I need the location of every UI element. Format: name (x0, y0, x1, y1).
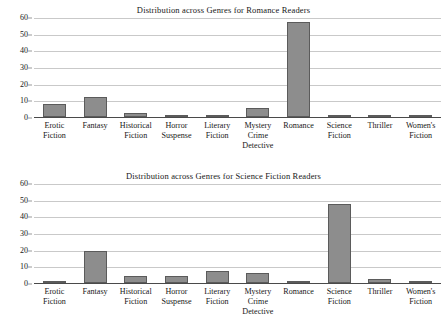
x-axis-label: Literary Fiction (197, 287, 238, 314)
bar (328, 204, 351, 283)
x-axis-line-romance (34, 117, 441, 118)
bar (165, 276, 188, 283)
bar-slot (197, 184, 238, 283)
x-axis-labels-scifi: Erotic FictionFantasyHistorical FictionH… (34, 287, 441, 314)
plot-wrap-romance: 0102030405060 Erotic FictionFantasyHisto… (0, 18, 447, 118)
chart-title-romance: Distribution across Genres for Romance R… (0, 0, 447, 15)
x-axis-label: Historical Fiction (115, 287, 156, 314)
bar-slot (319, 18, 360, 117)
x-axis-label: Mystery Crime Detective (238, 287, 279, 314)
bar-slot (400, 184, 441, 283)
y-tick-mark (28, 250, 32, 251)
x-axis-label: Romance (278, 287, 319, 314)
bar-slot (156, 18, 197, 117)
bar-slot (238, 184, 279, 283)
bar-slot (360, 184, 401, 283)
bar-slot (400, 18, 441, 117)
figure-page: Distribution across Genres for Romance R… (0, 0, 447, 314)
x-axis-label: Horror Suspense (156, 287, 197, 314)
x-axis-label: Erotic Fiction (34, 287, 75, 314)
bar (84, 97, 107, 117)
bar-slot (278, 18, 319, 117)
bar (206, 271, 229, 283)
bar (43, 104, 66, 117)
bar-slot (278, 184, 319, 283)
y-tick-label: 30 (20, 230, 28, 238)
bar-slot (197, 18, 238, 117)
y-tick-mark (28, 284, 32, 285)
y-tick-mark (28, 267, 32, 268)
bar-slot (319, 184, 360, 283)
bar-slot (75, 184, 116, 283)
bar-slot (34, 184, 75, 283)
y-tick-label: 10 (20, 97, 28, 105)
y-tick-label: 20 (20, 247, 28, 255)
y-tick-label: 50 (20, 31, 28, 39)
x-axis-label: Science Fiction (319, 287, 360, 314)
x-axis-label: Fantasy (75, 121, 116, 151)
bar-slot (75, 18, 116, 117)
x-axis-label: Erotic Fiction (34, 121, 75, 151)
chart-science-fiction-readers: Distribution across Genres for Science F… (0, 166, 447, 314)
bar (246, 108, 269, 117)
y-tick-mark (28, 34, 32, 35)
y-tick-mark (28, 200, 32, 201)
y-tick-label: 60 (20, 14, 28, 22)
x-axis-label: Historical Fiction (115, 121, 156, 151)
y-tick-label: 20 (20, 81, 28, 89)
bar (84, 251, 107, 284)
bar-group-scifi (34, 184, 441, 283)
y-tick-label: 60 (20, 180, 28, 188)
bar-slot (238, 18, 279, 117)
y-tick-label: 40 (20, 47, 28, 55)
x-axis-label: Mystery Crime Detective (238, 121, 279, 151)
bar-slot (34, 18, 75, 117)
y-tick-mark (28, 84, 32, 85)
x-axis-label: Romance (278, 121, 319, 151)
chart-title-scifi: Distribution across Genres for Science F… (0, 166, 447, 181)
x-axis-label: Thriller (360, 121, 401, 151)
x-axis-labels-romance: Erotic FictionFantasyHistorical FictionH… (34, 121, 441, 151)
plot-area-scifi (34, 184, 441, 284)
y-tick-mark (28, 118, 32, 119)
bar (246, 273, 269, 283)
y-tick-mark (28, 217, 32, 218)
x-axis-label: Thriller (360, 287, 401, 314)
x-axis-label: Science Fiction (319, 121, 360, 151)
y-tick-mark (28, 184, 32, 185)
y-tick-mark (28, 101, 32, 102)
x-axis-label: Fantasy (75, 287, 116, 314)
x-axis-label: Women's Fiction (400, 121, 441, 151)
bar-slot (115, 184, 156, 283)
y-tick-mark (28, 234, 32, 235)
bar-group-romance (34, 18, 441, 117)
y-tick-label: 50 (20, 197, 28, 205)
chart-romance-readers: Distribution across Genres for Romance R… (0, 0, 447, 166)
y-tick-label: 10 (20, 263, 28, 271)
bar (124, 276, 147, 284)
y-tick-mark (28, 68, 32, 69)
bar-slot (115, 18, 156, 117)
y-tick-mark (28, 51, 32, 52)
x-axis-label: Women's Fiction (400, 287, 441, 314)
y-axis-romance: 0102030405060 (0, 18, 34, 118)
x-axis-line-scifi (34, 283, 441, 284)
y-tick-mark (28, 18, 32, 19)
x-axis-label: Horror Suspense (156, 121, 197, 151)
y-axis-scifi: 0102030405060 (0, 184, 34, 284)
y-tick-label: 40 (20, 213, 28, 221)
plot-wrap-scifi: 0102030405060 Erotic FictionFantasyHisto… (0, 184, 447, 284)
bar-slot (156, 184, 197, 283)
x-axis-label: Literary Fiction (197, 121, 238, 151)
y-tick-label: 30 (20, 64, 28, 72)
plot-area-romance (34, 18, 441, 118)
bar-slot (360, 18, 401, 117)
bar (287, 22, 310, 117)
